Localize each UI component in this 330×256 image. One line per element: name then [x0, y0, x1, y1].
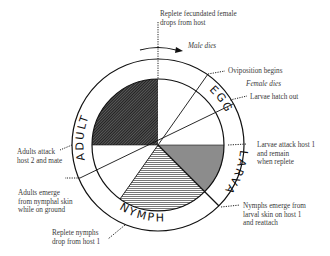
label-line: when replete	[257, 158, 315, 167]
label-line: drop from host 1	[52, 238, 100, 247]
label-female-dies: Female dies	[246, 80, 281, 89]
label-replete-nymphs: Replete nymphs drop from host 1	[52, 229, 100, 246]
label-line: and reattach	[243, 219, 306, 228]
label-line: while on ground	[18, 206, 73, 215]
label-larvae-attack: Larvae attack host 1 and remain when rep…	[257, 141, 315, 167]
label-line: drops from host	[160, 19, 237, 28]
label-adults-emerge: Adults emerge from nymphal skin while on…	[18, 189, 73, 215]
label-adults-attack: Adults attack host 2 and mate	[17, 148, 62, 165]
label-line: Nymphs emerge from	[243, 202, 306, 211]
label-male-dies: Male dies	[188, 42, 216, 51]
label-line: from nymphal skin	[18, 198, 73, 207]
label-oviposition: Oviposition begins	[228, 67, 283, 76]
label-line: larval skin on host 1	[243, 211, 306, 220]
label-line: host 2 and mate	[17, 157, 62, 166]
stage-larva: LARVA	[221, 150, 250, 198]
adult-wedge	[92, 79, 158, 145]
arrow-head-icon	[175, 47, 183, 53]
label-line: Larvae attack host 1	[257, 141, 315, 150]
divider-larva-ring	[205, 192, 219, 206]
label-line: Replete fecundated female	[160, 10, 237, 19]
label-nymphs-emerge: Nymphs emerge from larval skin on host 1…	[243, 202, 306, 228]
label-line: and remain	[257, 150, 315, 159]
label-line: Adults emerge	[18, 189, 73, 198]
label-line: Replete nymphs	[52, 229, 100, 238]
label-line: Adults attack	[17, 148, 62, 157]
label-replete-female: Replete fecundated female drops from hos…	[160, 10, 237, 27]
label-larvae-hatch: Larvae hatch out	[250, 93, 298, 102]
